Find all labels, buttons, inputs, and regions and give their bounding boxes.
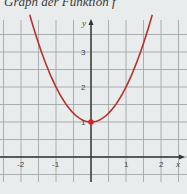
- svg-text:x: x: [175, 159, 180, 169]
- svg-text:2: 2: [81, 83, 86, 92]
- svg-text:2: 2: [159, 160, 164, 169]
- svg-text:-1: -1: [52, 160, 60, 169]
- svg-text:3: 3: [81, 48, 86, 57]
- function-plot: -2-112123xy: [0, 0, 187, 194]
- svg-text:-2: -2: [17, 160, 25, 169]
- axes: [0, 19, 185, 182]
- svg-text:y: y: [81, 18, 86, 28]
- tick-labels: -2-112123xy: [17, 18, 180, 169]
- vertex-point: [88, 119, 94, 125]
- svg-text:1: 1: [81, 118, 86, 127]
- svg-text:1: 1: [124, 160, 129, 169]
